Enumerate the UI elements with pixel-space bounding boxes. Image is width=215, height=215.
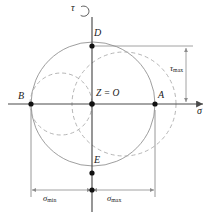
point-D-label: D <box>94 28 101 38</box>
sigma-max-label: σmax <box>107 194 121 204</box>
figure-canvas <box>0 0 215 215</box>
mohr-circle-figure: σ τ B A D E Z = O τmax σmin σmax <box>0 0 215 215</box>
axes <box>8 6 203 212</box>
point-dim-origin-marker <box>89 187 94 192</box>
sigma-min-label: σmin <box>43 194 56 204</box>
dimension-leaders <box>31 46 193 197</box>
point-A-marker <box>152 101 157 106</box>
point-D-marker <box>89 43 94 48</box>
tau-max-label: τmax <box>170 64 183 74</box>
sigma-min-subscript: min <box>47 197 56 203</box>
point-origin-marker <box>89 101 95 107</box>
point-B-label: B <box>18 91 24 101</box>
sigma-axis-label: σ <box>197 106 202 116</box>
origin-label: Z = O <box>96 89 119 99</box>
tau-rotation-arrow-icon <box>81 6 89 16</box>
plot-points <box>28 43 157 192</box>
point-E-label: E <box>94 155 100 165</box>
point-B-marker <box>28 101 33 106</box>
point-A-label: A <box>158 90 164 100</box>
tau-max-subscript: max <box>173 67 183 73</box>
sigma-max-subscript: max <box>111 197 121 203</box>
point-E-marker <box>89 170 94 175</box>
tau-axis-label: τ <box>71 3 75 13</box>
